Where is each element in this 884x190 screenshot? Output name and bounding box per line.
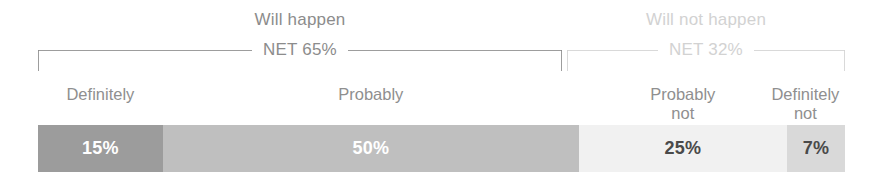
net-bracket: NET 65% <box>38 36 562 74</box>
bar-segment-value: 50% <box>352 138 389 159</box>
bar-segment-value: 25% <box>664 138 701 159</box>
category-label-line1: Probably <box>338 85 403 104</box>
category-label-definitely: Definitely <box>38 84 163 125</box>
bar-segment-definitely: 15% <box>38 125 163 172</box>
category-label-probably: Probably <box>163 84 579 125</box>
category-label-line2: not <box>650 104 715 123</box>
bar-segment-probably-not: 25% <box>579 125 787 172</box>
stacked-bar-chart: Will happen NET 65% Will not happen NET … <box>0 0 884 190</box>
bar-segment-definitely-not: 7% <box>787 125 845 172</box>
category-label-line1: Definitely <box>66 85 134 104</box>
net-group-will-happen: Will happen NET 65% <box>38 0 562 74</box>
bracket-rule-right <box>754 36 845 51</box>
stacked-bar: 15% 50% 25% 7% <box>38 125 845 172</box>
bar-segment-probably: 50% <box>163 125 579 172</box>
net-value-label: NET 32% <box>658 40 754 60</box>
category-label-probably-not: Probably not <box>579 84 787 125</box>
net-value-label: NET 65% <box>252 40 348 60</box>
category-label-row: Definitely Probably Probably not Definit… <box>38 84 845 125</box>
category-label-definitely-not: Definitely not <box>787 84 845 125</box>
bracket-rule-left <box>38 36 252 51</box>
net-group-will-not-happen: Will not happen NET 32% <box>567 0 845 74</box>
net-bracket: NET 32% <box>567 36 845 74</box>
bracket-rule-left <box>567 36 658 51</box>
bar-segment-value: 7% <box>803 138 829 159</box>
net-group-title: Will happen <box>38 10 562 30</box>
category-label-line2: not <box>766 104 845 123</box>
category-label-line1: Definitely <box>766 85 845 104</box>
bracket-rule-right <box>348 36 562 51</box>
net-group-title: Will not happen <box>567 10 845 30</box>
bar-segment-value: 15% <box>82 138 119 159</box>
category-label-line1: Probably <box>650 85 715 104</box>
